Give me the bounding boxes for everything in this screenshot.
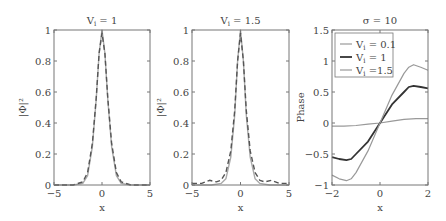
x-tick-label: 5 [147,188,153,199]
y-tick-label: 0 [323,118,329,129]
y-tick-label: 1.5 [313,25,329,36]
chart-panel-3: −1−0.500.511.5−202xPhaseσ = 10Vi = 0.1Vi… [295,15,431,213]
y-tick-label: 0.8 [35,56,51,67]
x-axis-label: x [377,202,383,213]
y-tick-label: 0.6 [173,87,189,98]
x-tick-label: −5 [47,188,62,199]
plot-frame [192,30,289,185]
y-tick-label: 0.2 [35,149,51,160]
x-tick-label: 5 [286,188,292,199]
plot-frame [54,30,150,185]
chart-title: Vi = 1.5 [219,15,260,28]
series-group [54,30,150,185]
series-line [192,33,289,183]
chart-panel-2: 00.20.40.60.81−505x|Φ|²Vi = 1.5 [155,15,292,213]
y-tick-label: 0.8 [173,56,189,67]
x-tick-label: −2 [325,188,340,199]
series-group [192,30,289,185]
y-tick-label: 1 [45,25,51,36]
series-line [54,30,150,185]
x-axis-label: x [238,202,244,213]
x-tick-label: 0 [377,188,383,199]
x-tick-label: 0 [237,188,243,199]
y-tick-label: 1 [183,25,189,36]
x-axis-label: x [99,202,105,213]
x-tick-label: −5 [185,188,200,199]
chart-title: σ = 10 [363,15,397,26]
chart-title: Vi = 1 [86,15,118,28]
y-axis-label: |Φ|² [17,98,29,117]
legend: Vi = 0.1Vi = 1Vi =1.5 [335,33,396,78]
y-tick-label: 1 [323,56,329,67]
chart-figure: 00.20.40.60.81−505x|Φ|²Vi = 100.20.40.60… [0,0,446,221]
x-tick-label: 0 [99,188,105,199]
y-tick-label: −0.5 [305,149,329,160]
y-tick-label: 0.4 [35,118,51,129]
y-tick-label: 0.5 [313,87,329,98]
y-axis-label: |Φ|² [155,98,167,117]
series-line [332,65,428,181]
series-group [332,65,428,181]
y-tick-label: 0.2 [173,149,189,160]
series-line [192,30,289,185]
y-tick-label: 0.4 [173,118,189,129]
x-tick-label: 2 [425,188,431,199]
chart-panel-1: 00.20.40.60.81−505x|Φ|²Vi = 1 [17,15,153,213]
y-tick-label: 0.6 [35,87,51,98]
series-line [54,33,150,185]
y-axis-label: Phase [295,92,306,122]
